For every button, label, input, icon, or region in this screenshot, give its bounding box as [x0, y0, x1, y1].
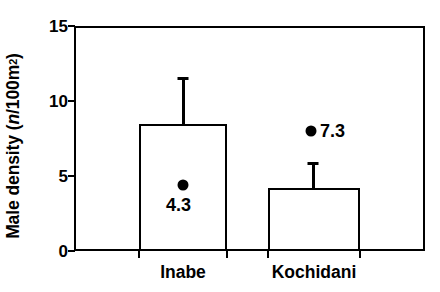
- annotation-label-kochidani: 7.3: [320, 122, 345, 140]
- annotation-label-inabe: 4.3: [166, 196, 191, 214]
- annotation-dot-inabe: [178, 180, 189, 191]
- errorbar-cap-inabe: [178, 77, 189, 80]
- y-axis-title-italic-n: n: [3, 114, 24, 125]
- y-tick-label-10: 10: [40, 93, 68, 110]
- x-tick-mark-kochidani-left: [267, 251, 269, 258]
- y-axis-title-suffix: ): [3, 53, 24, 59]
- errorbar-cap-kochidani: [308, 162, 319, 165]
- y-axis-title-mid: /100m: [3, 65, 24, 114]
- y-axis-title-prefix: Male density (: [3, 125, 24, 239]
- x-tick-mark-inabe-right: [226, 251, 228, 258]
- x-tick-mark-inabe-left: [138, 251, 140, 258]
- y-tick-label-5: 5: [40, 168, 68, 185]
- y-axis-title: Male density (n/100m2): [0, 0, 40, 292]
- errorbar-stem-inabe: [182, 77, 185, 124]
- chart-figure: Male density (n/100m2) 15 10 5 0 4.3 7.3…: [0, 0, 440, 292]
- x-tick-label-kochidani: Kochidani: [272, 264, 357, 282]
- plot-area-frame: [74, 26, 425, 251]
- bar-kochidani: [268, 188, 360, 251]
- y-tick-label-15: 15: [40, 18, 68, 35]
- annotation-dot-kochidani: [306, 126, 317, 137]
- x-tick-label-inabe: Inabe: [160, 264, 206, 282]
- y-tick-label-0: 0: [40, 243, 68, 260]
- x-tick-mark-kochidani-right: [359, 251, 361, 258]
- errorbar-stem-kochidani: [312, 162, 315, 188]
